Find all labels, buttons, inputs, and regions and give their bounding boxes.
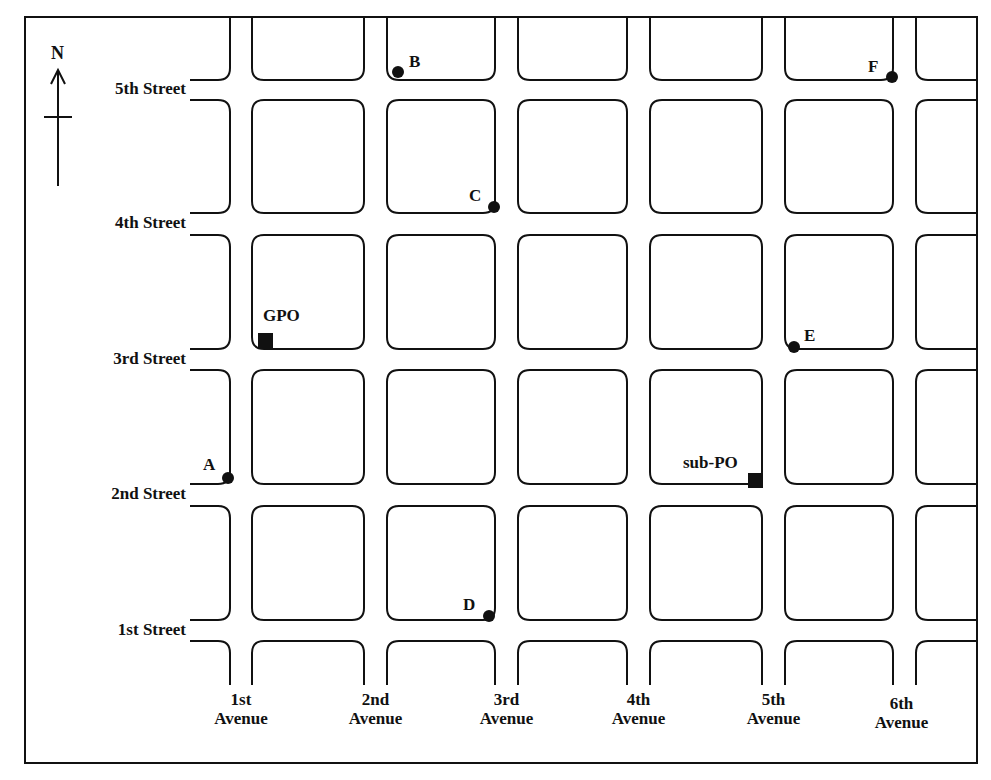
city-block	[650, 641, 762, 685]
city-block	[785, 100, 893, 213]
street-label: 1st Street	[26, 620, 186, 640]
avenue-word: Avenue	[462, 709, 552, 728]
avenue-number: 5th	[729, 690, 819, 709]
avenue-number: 4th	[594, 690, 684, 709]
location-dot-icon	[483, 610, 495, 622]
city-block	[387, 506, 495, 620]
city-block	[252, 18, 364, 80]
avenue-word: Avenue	[857, 713, 947, 732]
post-office-label: sub-PO	[683, 453, 738, 473]
avenue-number: 1st	[196, 690, 286, 709]
point-label: D	[463, 595, 475, 615]
post-office-icon	[748, 473, 763, 488]
city-block	[650, 100, 762, 213]
street-label: 5th Street	[26, 79, 186, 99]
location-dot-icon	[222, 472, 234, 484]
city-block	[916, 641, 976, 685]
city-block	[916, 370, 976, 484]
city-block	[190, 18, 230, 80]
city-block	[252, 506, 364, 620]
post-office-icon	[258, 333, 273, 348]
point-label: B	[409, 52, 420, 72]
city-block	[252, 100, 364, 213]
avenue-label: 6thAvenue	[857, 694, 947, 732]
city-block	[387, 235, 495, 349]
city-block	[518, 235, 627, 349]
compass-north-label: N	[51, 43, 64, 64]
point-label: A	[203, 455, 215, 475]
avenue-label: 3rdAvenue	[462, 690, 552, 728]
point-label: E	[804, 326, 815, 346]
city-block	[252, 370, 364, 484]
city-block	[916, 235, 976, 349]
avenue-word: Avenue	[594, 709, 684, 728]
city-block	[518, 506, 627, 620]
location-dot-icon	[488, 201, 500, 213]
avenue-number: 3rd	[462, 690, 552, 709]
city-block	[650, 506, 762, 620]
street-label: 4th Street	[26, 213, 186, 233]
map-frame	[25, 17, 977, 763]
city-block	[650, 235, 762, 349]
city-blocks	[190, 18, 976, 685]
city-block	[916, 506, 976, 620]
location-markers	[222, 66, 898, 622]
city-block	[785, 506, 893, 620]
avenue-word: Avenue	[196, 709, 286, 728]
avenue-label: 4thAvenue	[594, 690, 684, 728]
street-label: 3rd Street	[26, 349, 186, 369]
city-block	[190, 235, 230, 349]
city-block	[190, 100, 230, 213]
city-block	[252, 641, 364, 685]
street-map	[0, 0, 991, 780]
post-office-label: GPO	[263, 306, 300, 326]
city-block	[785, 370, 893, 484]
city-block	[916, 18, 976, 80]
city-block	[518, 370, 627, 484]
avenue-label: 5thAvenue	[729, 690, 819, 728]
city-block	[916, 100, 976, 213]
avenue-number: 6th	[857, 694, 947, 713]
avenue-word: Avenue	[729, 709, 819, 728]
city-block	[518, 100, 627, 213]
city-block	[518, 641, 627, 685]
city-block	[190, 641, 230, 685]
point-label: F	[868, 57, 878, 77]
avenue-label: 2ndAvenue	[331, 690, 421, 728]
point-label: C	[469, 186, 481, 206]
location-dot-icon	[788, 341, 800, 353]
city-block	[190, 506, 230, 620]
street-label: 2nd Street	[26, 484, 186, 504]
city-block	[252, 235, 364, 349]
city-block	[518, 18, 627, 80]
avenue-number: 2nd	[331, 690, 421, 709]
avenue-label: 1stAvenue	[196, 690, 286, 728]
city-block	[650, 18, 762, 80]
avenue-word: Avenue	[331, 709, 421, 728]
location-dot-icon	[392, 66, 404, 78]
city-block	[387, 370, 495, 484]
location-dot-icon	[886, 71, 898, 83]
city-block	[785, 235, 893, 349]
city-block	[785, 641, 893, 685]
city-block	[387, 641, 495, 685]
